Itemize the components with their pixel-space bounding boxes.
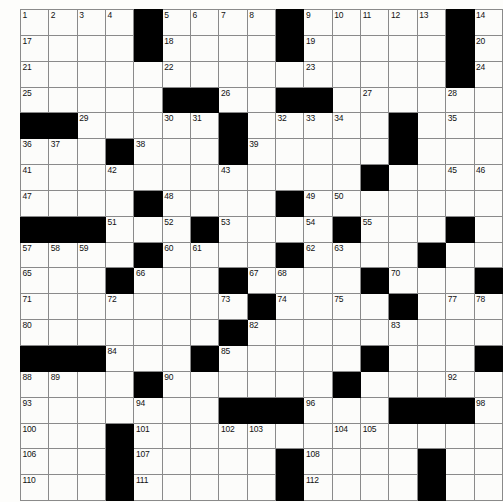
crossword-cell-numbered[interactable]: 51 bbox=[106, 216, 134, 242]
crossword-cell-numbered[interactable]: 3 bbox=[77, 10, 105, 36]
crossword-cell[interactable] bbox=[304, 268, 332, 294]
crossword-cell-numbered[interactable]: 6 bbox=[191, 10, 219, 36]
crossword-cell[interactable] bbox=[332, 165, 360, 191]
crossword-cell-numbered[interactable]: 62 bbox=[304, 242, 332, 268]
crossword-cell[interactable] bbox=[191, 35, 219, 61]
crossword-cell[interactable] bbox=[77, 294, 105, 320]
crossword-cell[interactable] bbox=[77, 371, 105, 397]
crossword-cell[interactable] bbox=[417, 216, 445, 242]
crossword-cell[interactable] bbox=[106, 61, 134, 87]
crossword-cell[interactable] bbox=[247, 190, 275, 216]
crossword-cell[interactable] bbox=[332, 397, 360, 423]
crossword-cell[interactable] bbox=[77, 268, 105, 294]
crossword-cell[interactable] bbox=[49, 35, 77, 61]
crossword-cell[interactable] bbox=[446, 268, 474, 294]
crossword-cell-numbered[interactable]: 100 bbox=[21, 423, 49, 449]
crossword-cell[interactable] bbox=[276, 216, 304, 242]
crossword-cell-numbered[interactable]: 42 bbox=[106, 165, 134, 191]
crossword-cell[interactable] bbox=[162, 423, 190, 449]
crossword-cell-numbered[interactable]: 7 bbox=[219, 10, 247, 36]
crossword-cell[interactable] bbox=[474, 423, 503, 449]
crossword-cell[interactable] bbox=[417, 165, 445, 191]
crossword-cell[interactable] bbox=[417, 190, 445, 216]
crossword-cell[interactable] bbox=[162, 475, 190, 501]
crossword-cell[interactable] bbox=[332, 35, 360, 61]
crossword-cell[interactable] bbox=[247, 87, 275, 113]
crossword-cell-numbered[interactable]: 68 bbox=[276, 268, 304, 294]
crossword-cell[interactable] bbox=[134, 113, 162, 139]
crossword-cell[interactable] bbox=[219, 61, 247, 87]
crossword-cell-numbered[interactable]: 59 bbox=[77, 242, 105, 268]
crossword-cell-numbered[interactable]: 20 bbox=[474, 35, 503, 61]
crossword-cell[interactable] bbox=[134, 294, 162, 320]
crossword-cell-numbered[interactable]: 47 bbox=[21, 190, 49, 216]
crossword-cell[interactable] bbox=[389, 475, 417, 501]
crossword-cell[interactable] bbox=[219, 371, 247, 397]
crossword-cell[interactable] bbox=[134, 165, 162, 191]
crossword-cell[interactable] bbox=[389, 87, 417, 113]
crossword-cell[interactable] bbox=[304, 294, 332, 320]
crossword-cell-numbered[interactable]: 53 bbox=[219, 216, 247, 242]
crossword-cell[interactable] bbox=[191, 190, 219, 216]
crossword-cell[interactable] bbox=[474, 113, 503, 139]
crossword-cell-numbered[interactable]: 12 bbox=[389, 10, 417, 36]
crossword-cell-numbered[interactable]: 35 bbox=[446, 113, 474, 139]
crossword-grid[interactable]: 1234567891011121314171819202122232425262… bbox=[20, 9, 503, 501]
crossword-cell[interactable] bbox=[389, 216, 417, 242]
crossword-cell[interactable] bbox=[134, 61, 162, 87]
crossword-cell[interactable] bbox=[191, 475, 219, 501]
crossword-cell-numbered[interactable]: 38 bbox=[134, 139, 162, 165]
crossword-cell[interactable] bbox=[77, 423, 105, 449]
crossword-cell-numbered[interactable]: 84 bbox=[106, 345, 134, 371]
crossword-cell-numbered[interactable]: 92 bbox=[446, 371, 474, 397]
crossword-cell-numbered[interactable]: 24 bbox=[474, 61, 503, 87]
crossword-cell[interactable] bbox=[304, 165, 332, 191]
crossword-cell-numbered[interactable]: 83 bbox=[389, 320, 417, 346]
crossword-cell[interactable] bbox=[49, 190, 77, 216]
crossword-cell[interactable] bbox=[276, 423, 304, 449]
crossword-cell[interactable] bbox=[134, 345, 162, 371]
crossword-cell[interactable] bbox=[276, 345, 304, 371]
crossword-cell-numbered[interactable]: 75 bbox=[332, 294, 360, 320]
crossword-cell-numbered[interactable]: 27 bbox=[361, 87, 389, 113]
crossword-cell-numbered[interactable]: 8 bbox=[247, 10, 275, 36]
crossword-cell-numbered[interactable]: 111 bbox=[134, 475, 162, 501]
crossword-cell[interactable] bbox=[474, 320, 503, 346]
crossword-cell-numbered[interactable]: 4 bbox=[106, 10, 134, 36]
crossword-cell-numbered[interactable]: 17 bbox=[21, 35, 49, 61]
crossword-cell[interactable] bbox=[474, 475, 503, 501]
crossword-cell-numbered[interactable]: 19 bbox=[304, 35, 332, 61]
crossword-cell-numbered[interactable]: 96 bbox=[304, 397, 332, 423]
crossword-cell-numbered[interactable]: 102 bbox=[219, 423, 247, 449]
crossword-cell[interactable] bbox=[247, 35, 275, 61]
crossword-cell-numbered[interactable]: 58 bbox=[49, 242, 77, 268]
crossword-cell[interactable] bbox=[332, 61, 360, 87]
crossword-cell[interactable] bbox=[134, 87, 162, 113]
crossword-cell[interactable] bbox=[219, 190, 247, 216]
crossword-cell[interactable] bbox=[247, 165, 275, 191]
crossword-cell[interactable] bbox=[191, 371, 219, 397]
crossword-cell[interactable] bbox=[162, 165, 190, 191]
crossword-cell-numbered[interactable]: 90 bbox=[162, 371, 190, 397]
crossword-cell[interactable] bbox=[77, 61, 105, 87]
crossword-cell[interactable] bbox=[389, 61, 417, 87]
crossword-cell-numbered[interactable]: 23 bbox=[304, 61, 332, 87]
crossword-cell[interactable] bbox=[191, 320, 219, 346]
crossword-cell[interactable] bbox=[417, 423, 445, 449]
crossword-cell[interactable] bbox=[49, 449, 77, 475]
crossword-cell[interactable] bbox=[247, 61, 275, 87]
crossword-cell[interactable] bbox=[446, 345, 474, 371]
crossword-cell-numbered[interactable]: 55 bbox=[361, 216, 389, 242]
crossword-cell-numbered[interactable]: 93 bbox=[21, 397, 49, 423]
crossword-cell[interactable] bbox=[417, 139, 445, 165]
crossword-cell-numbered[interactable]: 66 bbox=[134, 268, 162, 294]
crossword-cell[interactable] bbox=[49, 320, 77, 346]
crossword-cell[interactable] bbox=[77, 139, 105, 165]
crossword-cell[interactable] bbox=[219, 449, 247, 475]
crossword-cell-numbered[interactable]: 72 bbox=[106, 294, 134, 320]
crossword-cell-numbered[interactable]: 80 bbox=[21, 320, 49, 346]
crossword-cell-numbered[interactable]: 89 bbox=[49, 371, 77, 397]
crossword-cell[interactable] bbox=[417, 294, 445, 320]
crossword-cell-numbered[interactable]: 63 bbox=[332, 242, 360, 268]
crossword-cell-numbered[interactable]: 85 bbox=[219, 345, 247, 371]
